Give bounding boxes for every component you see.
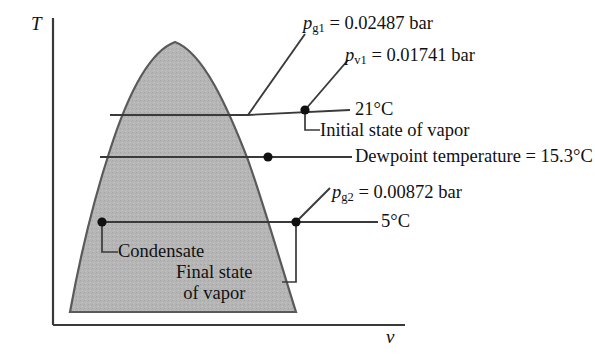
pg1-value: = 0.02487 bar — [325, 13, 433, 33]
pg1-symbol: p — [303, 13, 312, 33]
final-state-label: Final state of vapor — [176, 262, 253, 303]
final-state-line-2: of vapor — [176, 283, 253, 304]
pv1-leader-line — [305, 60, 348, 110]
pg1-label: pg1 = 0.02487 bar — [303, 14, 433, 33]
pg1-subscript: g1 — [312, 21, 325, 35]
diagram-canvas — [0, 0, 595, 355]
tv-phase-diagram-figure: T v pg1 = 0.02487 bar pv1 = 0.01741 bar … — [0, 0, 595, 355]
pg2-symbol: p — [332, 182, 341, 202]
pv1-symbol: p — [345, 45, 354, 65]
pv1-value: = 0.01741 bar — [367, 45, 475, 65]
state-dot-condensate — [97, 217, 106, 226]
condensate-label: Condensate — [118, 242, 204, 261]
state-dot-final-vapor — [291, 217, 300, 226]
final-state-line-1: Final state — [176, 262, 253, 283]
x-axis-label: v — [386, 327, 394, 346]
state-dot-initial-vapor — [300, 105, 309, 114]
temperature-21c-label: 21°C — [355, 100, 393, 119]
pg2-label: pg2 = 0.00872 bar — [332, 183, 462, 202]
pg2-leader-line — [296, 188, 330, 222]
temperature-5c-label: 5°C — [381, 212, 410, 231]
pv1-subscript: v1 — [354, 53, 367, 67]
pg2-value: = 0.00872 bar — [354, 182, 462, 202]
initial-state-label: Initial state of vapor — [320, 121, 470, 140]
isotherm-21c-leader — [248, 110, 350, 115]
dewpoint-label: Dewpoint temperature = 15.3°C — [355, 147, 593, 166]
pv1-label: pv1 = 0.01741 bar — [345, 46, 475, 65]
state-dot-dewpoint — [263, 152, 272, 161]
pg1-leader-line — [248, 34, 305, 115]
pg2-subscript: g2 — [341, 190, 354, 204]
y-axis-label: T — [31, 14, 42, 33]
